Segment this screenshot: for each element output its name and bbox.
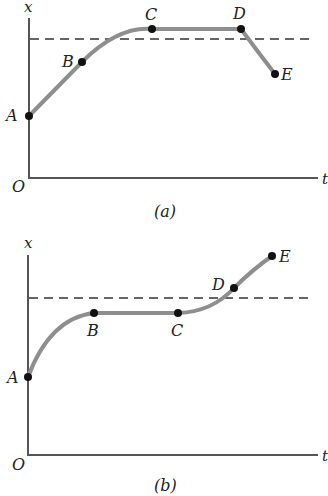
position-curve xyxy=(28,256,272,377)
label-a: A xyxy=(5,368,19,387)
point-c xyxy=(148,25,156,33)
origin-label: O xyxy=(12,177,25,196)
label-a: A xyxy=(4,106,18,125)
label-b: B xyxy=(86,321,99,340)
label-d: D xyxy=(232,4,246,23)
point-a xyxy=(24,373,32,381)
caption-b: (b) xyxy=(154,476,177,495)
point-d xyxy=(230,284,238,292)
y-axis-label: x xyxy=(24,234,33,252)
label-b: B xyxy=(61,52,74,71)
point-d xyxy=(237,25,245,33)
origin-label: O xyxy=(12,455,25,474)
y-axis-label: x xyxy=(24,0,33,16)
label-d: D xyxy=(211,275,225,294)
figure-a: x t O A B C D E (a) xyxy=(4,0,328,221)
caption-a: (a) xyxy=(154,202,176,221)
x-axis-label: t xyxy=(322,447,328,465)
point-a xyxy=(25,112,33,120)
label-c: C xyxy=(171,321,183,340)
label-e: E xyxy=(278,247,291,266)
point-c xyxy=(174,309,182,317)
point-e xyxy=(271,70,279,78)
point-b xyxy=(90,309,98,317)
motion-diagrams: x t O A B C D E (a) x t O A B C D E (b) xyxy=(0,0,328,496)
position-curve xyxy=(29,29,275,116)
point-b xyxy=(78,58,86,66)
label-e: E xyxy=(280,65,293,84)
figure-b: x t O A B C D E (b) xyxy=(5,234,328,495)
point-e xyxy=(268,252,276,260)
x-axis-label: t xyxy=(322,170,328,188)
label-c: C xyxy=(145,5,157,24)
